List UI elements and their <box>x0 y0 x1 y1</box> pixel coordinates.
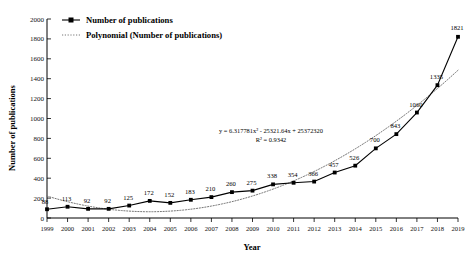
data-point-label: 113 <box>62 195 72 202</box>
data-point-marker <box>353 164 357 168</box>
x-tick-label: 2008 <box>225 225 239 232</box>
legend-label-series: Number of publications <box>86 15 173 25</box>
data-point-label: 1335 <box>430 73 444 80</box>
x-tick-label: 2002 <box>102 225 115 232</box>
data-point-marker <box>436 83 440 87</box>
legend-label-trendline: Polynomial (Number of publications) <box>86 30 222 40</box>
data-point-label: 210 <box>205 185 216 192</box>
data-point-label: 92 <box>84 197 91 204</box>
data-point-marker <box>230 190 234 194</box>
data-point-marker <box>251 189 255 193</box>
x-tick-label: 2004 <box>143 225 157 232</box>
x-tick-label: 2015 <box>369 225 383 232</box>
data-point-marker <box>271 182 275 186</box>
data-point-label: 275 <box>247 179 258 186</box>
publications-line-chart: Number of publications 02004006008001000… <box>0 0 468 262</box>
y-tick-label: 400 <box>34 175 45 183</box>
data-point-label: 183 <box>185 188 196 195</box>
data-point-marker <box>292 181 296 185</box>
x-tick-label: 2007 <box>205 225 219 232</box>
trendline-equation-text: y = 6.317781x² - 25321.64x + 25372320 <box>219 127 323 134</box>
x-tick-label: 2013 <box>328 225 342 232</box>
y-tick-label: 2000 <box>30 16 45 24</box>
x-tick-label: 1999 <box>40 225 54 232</box>
x-axis-tick-labels: 1999200020012002200320042005200620072008… <box>40 225 465 232</box>
x-tick-label: 2009 <box>246 225 260 232</box>
legend-series-marker-icon <box>69 18 74 23</box>
y-tick-label: 800 <box>34 135 45 143</box>
data-point-marker <box>312 180 316 184</box>
y-tick-label: 1200 <box>30 95 45 103</box>
data-point-label: 354 <box>288 171 299 178</box>
data-point-label: 125 <box>123 194 134 201</box>
data-point-marker <box>148 199 152 203</box>
y-tick-label: 1800 <box>30 35 45 43</box>
x-tick-label: 2018 <box>431 225 445 232</box>
data-point-marker <box>66 205 70 209</box>
x-axis-ticks <box>47 218 458 222</box>
data-point-label: 92 <box>104 197 111 204</box>
data-point-marker <box>168 201 172 205</box>
data-point-marker <box>394 132 398 136</box>
data-point-label: 843 <box>390 122 401 129</box>
data-point-marker <box>210 195 214 199</box>
x-tick-label: 2000 <box>61 225 75 232</box>
chart-canvas: Number of publications 02004006008001000… <box>0 0 468 262</box>
y-tick-label: 0 <box>41 215 45 223</box>
data-point-label: 1060 <box>409 101 423 108</box>
data-point-label: 172 <box>144 189 154 196</box>
data-point-label: 338 <box>267 172 278 179</box>
data-point-label: 366 <box>308 170 319 177</box>
y-axis-title: Number of publications <box>7 84 17 170</box>
x-tick-label: 2003 <box>123 225 137 232</box>
data-point-marker <box>127 204 131 208</box>
x-axis-title: Year <box>244 242 261 252</box>
y-tick-label: 1600 <box>30 55 45 63</box>
x-tick-label: 2017 <box>410 225 424 232</box>
x-tick-label: 2019 <box>451 225 465 232</box>
y-tick-label: 600 <box>34 155 45 163</box>
x-tick-label: 2001 <box>82 225 95 232</box>
x-tick-label: 2010 <box>266 225 280 232</box>
data-point-marker <box>107 207 111 211</box>
data-point-marker <box>456 35 460 39</box>
data-point-label: 526 <box>349 154 360 161</box>
x-tick-label: 2012 <box>308 225 321 232</box>
x-tick-label: 2011 <box>287 225 300 232</box>
data-point-marker <box>189 198 193 202</box>
x-tick-label: 2014 <box>349 225 363 232</box>
y-tick-label: 1400 <box>30 75 45 83</box>
y-tick-label: 1000 <box>30 115 45 123</box>
data-point-marker <box>415 111 419 115</box>
x-tick-label: 2005 <box>164 225 178 232</box>
x-tick-label: 2006 <box>184 225 198 232</box>
x-tick-label: 2016 <box>390 225 404 232</box>
data-point-label: 1821 <box>450 24 463 31</box>
data-point-label: 700 <box>370 136 381 143</box>
data-point-marker <box>374 146 378 150</box>
data-point-marker <box>45 207 49 211</box>
trendline-r-squared-text: R² = 0.9342 <box>256 136 287 143</box>
data-point-marker <box>333 171 337 175</box>
data-point-label: 260 <box>226 180 237 187</box>
data-point-label: 88 <box>42 198 49 205</box>
data-point-label: 152 <box>164 191 174 198</box>
data-point-marker <box>86 207 90 211</box>
data-point-label: 457 <box>329 161 340 168</box>
